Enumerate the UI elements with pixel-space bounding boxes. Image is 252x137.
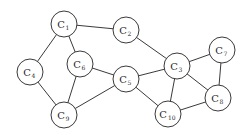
node-subscript: 10 xyxy=(168,114,176,121)
node-label: C xyxy=(57,110,65,121)
node-label: C xyxy=(211,93,219,104)
node-label: C xyxy=(73,59,81,70)
node-c4: C4 xyxy=(17,59,43,85)
node-subscript: 1 xyxy=(66,24,70,31)
node-label: C xyxy=(170,61,178,72)
node-subscript: 4 xyxy=(32,72,36,79)
node-subscript: 2 xyxy=(128,30,132,37)
node-label: C xyxy=(23,67,31,78)
node-c9: C9 xyxy=(51,102,77,128)
node-label: C xyxy=(119,74,127,85)
node-label: C xyxy=(159,109,167,120)
node-subscript: 8 xyxy=(220,98,224,105)
node-c5: C5 xyxy=(113,66,139,92)
node-subscript: 3 xyxy=(179,66,183,73)
node-subscript: 5 xyxy=(128,79,132,86)
node-c8: C8 xyxy=(205,85,231,111)
node-c6: C6 xyxy=(67,51,93,77)
node-label: C xyxy=(119,25,127,36)
node-label: C xyxy=(215,45,223,56)
node-subscript: 6 xyxy=(82,64,86,71)
graph-diagram: C1C2C3C4C5C6C7C8C9C10 xyxy=(0,0,252,137)
node-c7: C7 xyxy=(209,37,235,63)
nodes-layer: C1C2C3C4C5C6C7C8C9C10 xyxy=(17,11,235,128)
node-c2: C2 xyxy=(113,17,139,43)
node-c3: C3 xyxy=(164,53,190,79)
node-subscript: 9 xyxy=(66,115,70,122)
node-label: C xyxy=(57,19,65,30)
node-c1: C1 xyxy=(51,11,77,37)
node-subscript: 7 xyxy=(224,50,228,57)
node-c10: C10 xyxy=(155,101,181,127)
